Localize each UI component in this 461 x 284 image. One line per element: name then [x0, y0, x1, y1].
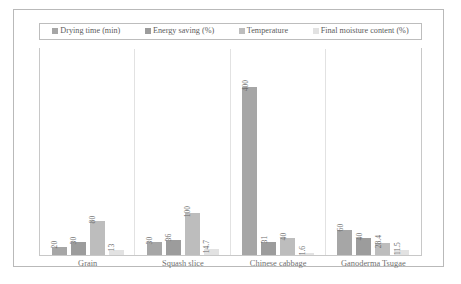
bar-wrapper: 60 [337, 230, 352, 255]
x-axis-category-label: Squash slice [135, 257, 230, 273]
legend-item-temperature[interactable]: Temperature [239, 27, 288, 35]
bar-wrapper: 80 [90, 221, 105, 255]
x-axis-labels: Grain Squash slice Chinese cabbage Ganod… [40, 257, 421, 273]
bar-value-label: 100 [185, 205, 193, 216]
legend-item-final-moisture-content[interactable]: Final moisture content (%) [313, 27, 409, 35]
x-axis-category-label: Chinese cabbage [231, 257, 326, 273]
bar[interactable] [337, 230, 352, 255]
bar[interactable] [356, 238, 371, 255]
plot-area: 20308013303610014.740031401.6604028.411.… [40, 49, 421, 255]
bar-wrapper: 40 [280, 238, 295, 255]
x-axis-category-label: Grain [40, 257, 135, 273]
bar-wrapper: 36 [166, 240, 181, 255]
legend-item-energy-saving[interactable]: Energy saving (%) [145, 27, 214, 35]
bar[interactable] [90, 221, 105, 255]
bar-wrapper: 30 [147, 242, 162, 255]
bar-value-label: 11.5 [394, 242, 402, 255]
bar-value-label: 31 [261, 236, 269, 244]
bar-group: 604028.411.5 [326, 49, 421, 255]
legend-item-label: Final moisture content (%) [321, 27, 409, 35]
legend-swatch-icon [239, 28, 245, 34]
x-axis-category-label: Ganoderma Tsugae [326, 257, 421, 273]
bar-wrapper: 1.6 [299, 253, 314, 255]
legend-item-drying-time[interactable]: Drying time (min) [52, 27, 120, 35]
legend-item-label: Drying time (min) [60, 27, 120, 35]
bar-value-label: 28.4 [375, 234, 383, 247]
bar-wrapper: 13 [109, 250, 124, 255]
bar-value-label: 13 [109, 244, 117, 252]
bar-value-label: 14.7 [204, 240, 212, 253]
bar-group: 303610014.7 [135, 49, 230, 255]
legend-swatch-icon [52, 28, 58, 34]
bar-value-label: 1.6 [299, 246, 307, 256]
bar[interactable] [261, 242, 276, 255]
bar-wrapper: 14.7 [204, 249, 219, 255]
bar-value-label: 40 [280, 232, 288, 240]
legend-item-label: Temperature [247, 27, 288, 35]
bar-wrapper: 30 [71, 242, 86, 255]
bar[interactable] [166, 240, 181, 255]
bar-value-label: 80 [90, 216, 98, 224]
bar-value-label: 40 [356, 232, 364, 240]
bar-wrapper: 100 [185, 213, 200, 255]
chart-legend: Drying time (min) Energy saving (%) Temp… [39, 23, 422, 40]
legend-swatch-icon [313, 28, 319, 34]
legend-swatch-icon [145, 28, 151, 34]
bar-value-label: 20 [52, 241, 60, 249]
bar[interactable] [185, 213, 200, 255]
bar-value-label: 30 [147, 237, 155, 245]
bar-wrapper: 28.4 [375, 243, 390, 255]
bar-value-label: 30 [71, 237, 79, 245]
bar-wrapper: 11.5 [394, 250, 409, 255]
bar[interactable] [280, 238, 295, 255]
bar-group: 40031401.6 [231, 49, 326, 255]
bar-wrapper: 40 [356, 238, 371, 255]
bar-wrapper: 31 [261, 242, 276, 255]
bar-wrapper: 400 [242, 87, 257, 255]
bar-value-label: 36 [166, 234, 174, 242]
bar-wrapper: 20 [52, 247, 67, 255]
bar-value-label: 60 [337, 224, 345, 232]
bar-value-label: 400 [242, 80, 250, 91]
chart-frame: Drying time (min) Energy saving (%) Temp… [13, 9, 444, 267]
bar[interactable] [242, 87, 257, 255]
bar-group: 20308013 [40, 49, 135, 255]
legend-item-label: Energy saving (%) [153, 27, 214, 35]
